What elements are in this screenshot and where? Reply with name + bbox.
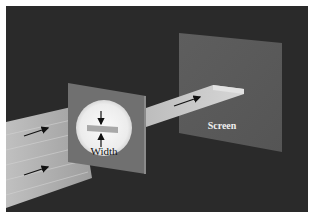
diffraction-diagram: Width Screen [0, 0, 316, 220]
screen-label: Screen [208, 120, 237, 131]
width-label: Width [90, 145, 118, 157]
